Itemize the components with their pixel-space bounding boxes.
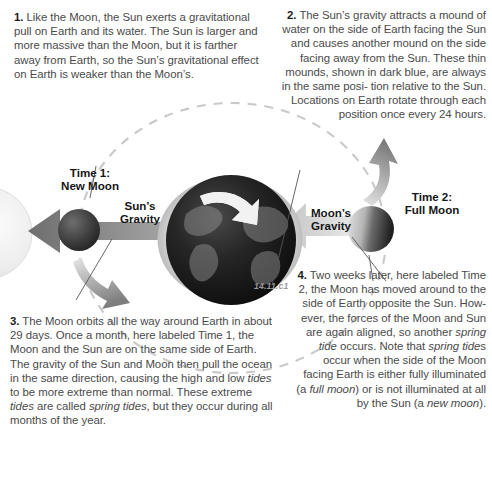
- text-block-1-number: 1.: [14, 11, 23, 23]
- text-block-1: 1. Like the Moon, the Sun exerts a gravi…: [14, 10, 264, 81]
- text-block-4: 4. Two weeks later, here labeled Time 2,…: [292, 268, 486, 410]
- label-time1-new-moon: Time 1: New Moon: [38, 166, 142, 193]
- text-block-3-number: 3.: [10, 315, 19, 327]
- moon-new-moon: [58, 209, 100, 251]
- text-block-1-body: Like the Moon, the Sun exerts a gravitat…: [14, 11, 259, 80]
- label-suns-gravity: Sun’s Gravity: [104, 199, 176, 226]
- text-block-2-body: The Sun’s gravity attracts a mound of wa…: [282, 9, 486, 120]
- text-block-4-body: Two weeks later, here labeled Time 2, th…: [296, 269, 486, 409]
- text-block-3: 3. The Moon orbits all the way around Ea…: [10, 314, 278, 428]
- text-block-2-number: 2.: [287, 9, 296, 21]
- text-block-2: 2. The Sun’s gravity attracts a mound of…: [278, 8, 486, 122]
- text-block-4-number: 4.: [297, 269, 306, 281]
- leader-block3-to-moon-new: [76, 239, 112, 300]
- figure-canvas: 1. Like the Moon, the Sun exerts a gravi…: [0, 0, 492, 497]
- figure-label: 14.11.c1: [254, 281, 288, 291]
- earth-rotation-arrow-upper: [200, 192, 259, 225]
- orbit-arrow-lower-left: [73, 258, 130, 309]
- label-time2-full-moon: Time 2: Full Moon: [382, 190, 482, 217]
- earth-rotation-arrow-lower: [200, 192, 259, 225]
- label-moons-gravity: Moon’s Gravity: [296, 206, 366, 233]
- sun: [0, 187, 32, 279]
- text-block-3-body: The Moon orbits all the way around Earth…: [10, 315, 273, 426]
